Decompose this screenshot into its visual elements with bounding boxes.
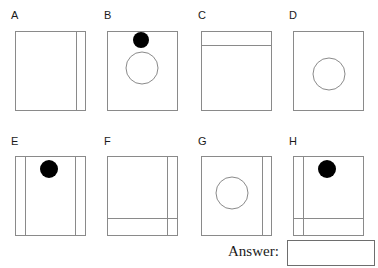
panel-label-f: F — [104, 136, 111, 147]
filled-circle — [318, 160, 336, 178]
panel-border — [16, 32, 86, 111]
open-circle — [216, 177, 248, 209]
panel-figure-f — [105, 154, 179, 237]
answer-label: Answer: — [228, 243, 279, 259]
panel-label-e: E — [11, 136, 19, 147]
panel-label-g: G — [198, 136, 207, 147]
panel-border — [202, 157, 272, 236]
open-circle — [313, 58, 345, 90]
panel-label-h: H — [289, 136, 297, 147]
panel-label-a: A — [11, 10, 19, 21]
panel-figure-h — [291, 154, 365, 237]
panel-figure-c — [199, 29, 273, 112]
panel-border — [294, 32, 364, 111]
panel-figure-g — [199, 154, 273, 237]
filled-circle — [40, 160, 58, 178]
puzzle-canvas: ABCDEFGHAnswer: — [0, 0, 378, 268]
panel-label-b: B — [104, 10, 112, 21]
panel-figure-e — [13, 154, 87, 237]
panel-border — [202, 32, 272, 111]
answer-input[interactable] — [287, 240, 375, 266]
filled-circle — [133, 32, 149, 48]
panel-label-d: D — [289, 10, 297, 21]
panel-figure-a — [13, 29, 87, 112]
panel-label-c: C — [198, 10, 206, 21]
panel-figure-d — [291, 29, 365, 112]
panel-figure-b — [105, 29, 179, 112]
open-circle — [126, 52, 158, 84]
